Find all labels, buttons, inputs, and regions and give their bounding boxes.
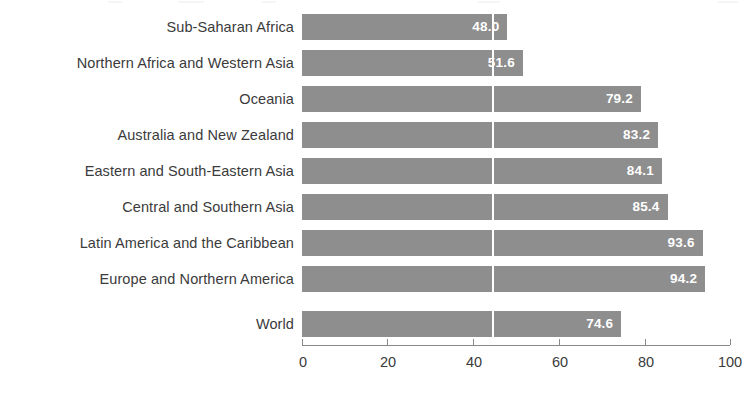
x-axis-tick-label: 100 (718, 354, 742, 370)
reference-line (492, 14, 494, 292)
x-axis-tick-label: 20 (380, 354, 396, 370)
bar-fill[interactable] (302, 158, 662, 184)
bar-value-label: 83.2 (620, 122, 650, 148)
bar-value-label: 84.1 (624, 158, 654, 184)
bar-value-label: 51.6 (485, 50, 515, 76)
bar-row: Central and Southern Asia 85.4 (0, 194, 754, 220)
bar-category-label: Latin America and the Caribbean (80, 230, 294, 256)
bar-row: Northern Africa and Western Asia 51.6 (0, 50, 754, 76)
bar-category-label: Oceania (239, 86, 294, 112)
bar-track: 84.1 (302, 158, 730, 184)
bar-row: Eastern and South-Eastern Asia 84.1 (0, 158, 754, 184)
x-axis-tick (302, 339, 303, 345)
bar-track: 79.2 (302, 86, 730, 112)
bar-category-label: Northern Africa and Western Asia (77, 50, 294, 76)
plot-area: Sub-Saharan Africa 48.0 Northern Africa … (0, 0, 754, 395)
x-axis-tick (473, 339, 474, 345)
bar-fill[interactable] (302, 230, 703, 256)
bar-category-label: Europe and Northern America (99, 266, 294, 292)
bar-track: 94.2 (302, 266, 730, 292)
bar-track: 48.0 (302, 14, 730, 40)
bar-fill[interactable] (302, 194, 668, 220)
bar-category-label: World (256, 311, 294, 337)
bar-fill[interactable] (302, 122, 658, 148)
bar-row: Australia and New Zealand 83.2 (0, 122, 754, 148)
bar-value-label: 85.4 (630, 194, 660, 220)
x-axis-tick (559, 339, 560, 345)
bar-track: 51.6 (302, 50, 730, 76)
x-axis-tick-label: 40 (466, 354, 482, 370)
x-axis-tick-label: 80 (638, 354, 654, 370)
bar-track: 74.6 (302, 311, 730, 337)
bar-category-label: Eastern and South-Eastern Asia (85, 158, 294, 184)
bar-value-label: 48.0 (469, 14, 499, 40)
bar-category-label: Central and Southern Asia (122, 194, 294, 220)
bar-value-label: 79.2 (603, 86, 633, 112)
bar-fill[interactable] (302, 266, 705, 292)
bar-track: 93.6 (302, 230, 730, 256)
bar-track: 85.4 (302, 194, 730, 220)
reference-line-world (492, 311, 494, 337)
bar-row: Latin America and the Caribbean 93.6 (0, 230, 754, 256)
x-axis-tick (730, 339, 731, 345)
bar-chart: Sub-Saharan Africa 48.0 Northern Africa … (0, 0, 754, 395)
bar-row-world: World 74.6 (0, 311, 754, 337)
x-axis-line (302, 345, 730, 346)
bar-track: 83.2 (302, 122, 730, 148)
bar-row: Oceania 79.2 (0, 86, 754, 112)
x-axis-tick (387, 339, 388, 345)
bar-value-label: 74.6 (583, 311, 613, 337)
bar-value-label: 94.2 (667, 266, 697, 292)
bar-row: Europe and Northern America 94.2 (0, 266, 754, 292)
bar-category-label: Australia and New Zealand (117, 122, 294, 148)
x-axis-tick-label: 0 (299, 354, 307, 370)
bar-category-label: Sub-Saharan Africa (166, 14, 294, 40)
bar-fill[interactable] (302, 311, 621, 337)
x-axis-tick (645, 339, 646, 345)
x-axis-tick-label: 60 (552, 354, 568, 370)
bar-row: Sub-Saharan Africa 48.0 (0, 14, 754, 40)
bar-value-label: 93.6 (665, 230, 695, 256)
bar-fill[interactable] (302, 86, 641, 112)
